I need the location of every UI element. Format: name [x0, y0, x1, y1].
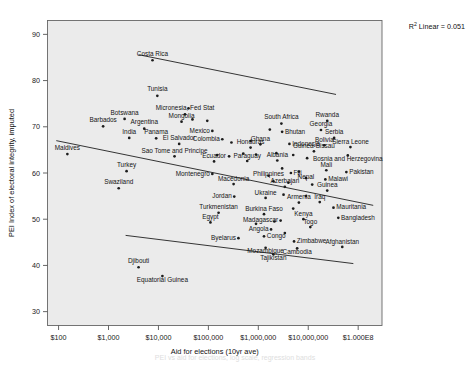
data-point-label: Afghanistan — [325, 238, 359, 246]
data-point — [230, 141, 233, 144]
data-point — [349, 146, 352, 149]
x-tick-label: $1,000 — [98, 333, 120, 342]
data-point-label: Zimbabwe — [297, 237, 327, 244]
data-point — [325, 169, 328, 172]
data-point-label: Tajikistan — [260, 254, 287, 262]
data-point-label: Montenegro — [176, 170, 211, 178]
x-tick-label: $1.000E8 — [343, 333, 374, 342]
data-point — [270, 228, 273, 231]
data-point-label: Ukraine — [255, 189, 277, 196]
data-point — [345, 171, 348, 174]
data-point — [102, 125, 105, 128]
data-point — [288, 143, 291, 146]
y-tick-label: 30 — [32, 307, 40, 316]
data-point-label: Madagascar — [243, 216, 279, 224]
x-tick-label: $10,000,000 — [288, 333, 328, 342]
data-point — [211, 130, 214, 133]
data-point — [320, 129, 323, 132]
data-point — [232, 183, 235, 186]
data-point — [249, 146, 252, 149]
data-point-label: Mongolia — [169, 112, 195, 120]
data-point-label: Mali — [320, 161, 332, 168]
data-point — [292, 154, 295, 157]
data-point — [178, 143, 181, 146]
data-point-label: Macedonia — [218, 175, 250, 182]
data-point — [233, 195, 236, 198]
data-point — [293, 240, 296, 243]
data-point-label: Turkey — [117, 161, 137, 169]
data-point-label: Cambodia — [283, 248, 313, 255]
data-point-label: Jordan — [212, 192, 232, 199]
data-point — [137, 266, 140, 269]
x-tick-label: $1,000,000 — [240, 333, 276, 342]
data-point-label: Burkina Faso — [245, 205, 283, 212]
data-point-label: Colombia — [193, 135, 220, 142]
data-point — [337, 216, 340, 219]
data-point — [221, 138, 224, 141]
y-tick-label: 50 — [32, 215, 40, 224]
data-point-label: Costa Rica — [137, 50, 169, 57]
data-point — [209, 221, 212, 224]
data-point — [151, 59, 154, 62]
data-point — [228, 155, 231, 158]
y-tick-label: 80 — [32, 76, 40, 85]
data-point — [211, 173, 214, 176]
data-point-label: Sao Tome and Principe — [142, 147, 208, 155]
data-point-label: Ecuador — [202, 152, 227, 159]
data-point — [318, 201, 321, 204]
data-point — [326, 189, 329, 192]
data-point — [180, 120, 183, 123]
data-point-label: Honduras — [237, 138, 265, 145]
data-point — [276, 159, 279, 162]
data-point — [125, 170, 128, 173]
data-point — [311, 183, 314, 186]
data-point — [282, 193, 285, 196]
data-point — [268, 128, 271, 131]
data-point-label: Nepal — [298, 173, 315, 181]
x-tick-label: $10,000 — [145, 333, 171, 342]
data-point-label: India — [122, 128, 136, 135]
data-point-label: Bangladesh — [341, 214, 375, 222]
data-point-label: Mauritania — [336, 203, 366, 210]
y-tick-label: 90 — [32, 30, 40, 39]
data-point — [213, 160, 216, 163]
data-point-label: Kenya — [294, 210, 313, 218]
data-point-label: Azerbajan — [270, 177, 299, 185]
data-point-label: Turkmenistan — [199, 203, 238, 210]
data-point-label: Tunisia — [147, 85, 168, 92]
data-point — [263, 213, 266, 216]
data-point-label: Armenia — [287, 193, 311, 200]
data-point — [237, 237, 240, 240]
data-point — [313, 150, 316, 153]
data-point-label: Iraq — [314, 193, 325, 201]
data-point — [117, 187, 120, 190]
data-point-label: Byelarus — [211, 234, 236, 242]
data-point — [279, 219, 282, 222]
data-point-label: Botswana — [111, 109, 140, 116]
data-point-label: Albania — [267, 151, 289, 158]
data-point — [306, 157, 309, 160]
data-point — [264, 197, 267, 200]
data-point — [283, 186, 286, 189]
r2-annotation-group: R2 Linear = 0.051 — [409, 21, 465, 31]
plot-svg: $100$1,000$10,000$100,000$1,000,000$10,0… — [0, 0, 470, 368]
scatter-chart: $100$1,000$10,000$100,000$1,000,000$10,0… — [0, 0, 470, 368]
data-point-label: Georgia — [310, 120, 333, 128]
data-point — [206, 119, 209, 122]
data-point — [290, 172, 293, 175]
data-point-label: Togo — [303, 218, 317, 226]
data-point-label: Serbia — [325, 128, 344, 135]
data-point-label: Egypt — [202, 213, 219, 221]
data-point-label: Guinea-Bissau — [293, 142, 335, 149]
data-point — [128, 137, 131, 140]
y-tick-label: 60 — [32, 169, 40, 178]
data-point — [298, 201, 301, 204]
data-point-label: Djibouti — [128, 257, 149, 265]
data-point-label: Guinea — [317, 181, 338, 188]
data-point-label: El Salvador — [163, 134, 197, 141]
data-point-label: Argentina — [131, 118, 159, 126]
y-axis-title: PEI Index of electoral integrity, impute… — [7, 109, 16, 237]
data-point — [309, 226, 312, 229]
data-point-label: Bhutan — [285, 128, 306, 135]
data-point-label: Swaziland — [104, 178, 134, 185]
